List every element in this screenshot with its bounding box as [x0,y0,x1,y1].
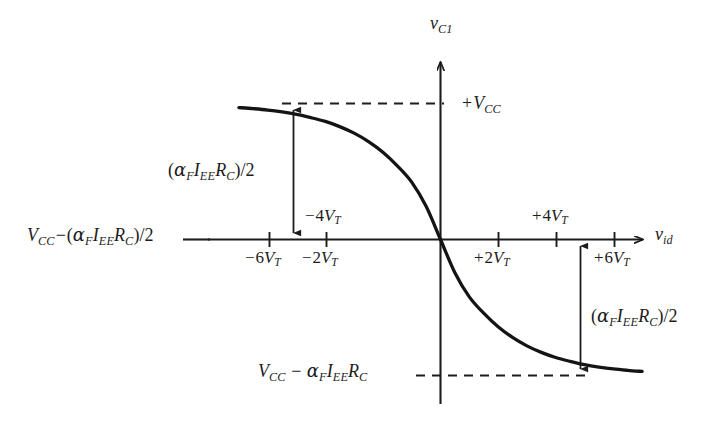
level-label-vcc-bottom: VCC − αFIEERC [258,362,367,380]
x-tick-label-plus6: +6VT [593,249,630,266]
x-tick-label-minus4: −4VT [304,207,341,224]
x-tick-label-plus2: +2VT [473,249,510,266]
level-label-vcc-top: +VCC [461,94,501,112]
x-axis-label: vid [655,225,673,243]
x-tick-label-minus6: −6VT [244,249,281,266]
level-label-midpoint: VCC−(αFIEERC)/2 [27,226,153,244]
span-label-lower: (αFIEERC)/2 [591,307,678,325]
figure-canvas: vC1 vid +VCC VCC−(αFIEERC)/2 VCC − αFIEE… [0,0,720,421]
y-axis-label: vC1 [430,14,453,32]
plot-background [0,0,720,421]
x-tick-label-minus2: −2VT [301,249,338,266]
transfer-characteristic-plot [0,0,720,421]
span-label-upper: (αFIEERC)/2 [168,161,255,179]
x-tick-label-plus4: +4VT [531,207,568,224]
